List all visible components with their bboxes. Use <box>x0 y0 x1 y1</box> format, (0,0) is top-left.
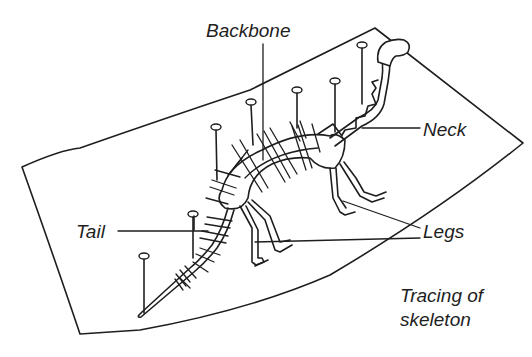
pin <box>330 78 340 132</box>
label-tail: Tail <box>76 222 105 241</box>
tail-bone <box>138 208 234 317</box>
label-neck: Neck <box>423 120 466 139</box>
label-backbone: Backbone <box>206 21 291 40</box>
caption-line-2: skeleton <box>400 308 483 332</box>
pin <box>246 99 256 145</box>
caption: Tracing of skeleton <box>400 284 483 332</box>
legs-leader-front <box>343 201 420 228</box>
skull <box>378 39 410 66</box>
label-legs: Legs <box>423 222 464 241</box>
pin <box>139 253 149 313</box>
leader-lines <box>118 44 420 242</box>
caption-line-1: Tracing of <box>400 284 483 308</box>
pin <box>188 211 198 258</box>
backbone-bone <box>219 135 345 209</box>
pin <box>357 42 367 104</box>
